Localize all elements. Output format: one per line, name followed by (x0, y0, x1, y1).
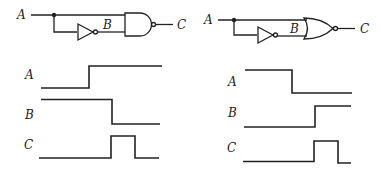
left-inverter-icon (78, 24, 93, 40)
right-timing: A B C (227, 70, 352, 163)
left-circuit-label-a: A (16, 8, 26, 22)
left-waveform-a (41, 66, 162, 88)
right-timing-label-c: C (227, 141, 236, 155)
right-nor-gate-icon (304, 18, 333, 39)
right-circuit-label-b: B (289, 22, 299, 36)
left-circuit: A B C (16, 8, 186, 40)
left-timing-label-c: C (24, 138, 33, 152)
right-circuit-label-c: C (360, 22, 369, 36)
left-nand-gate-icon (125, 13, 152, 36)
right-timing-label-b: B (227, 106, 237, 120)
right-waveform-c (243, 141, 351, 163)
right-wire-branch (234, 20, 257, 35)
left-inverter-bubble (94, 30, 98, 34)
right-inverter-bubble (274, 33, 278, 37)
right-circuit: A B C (203, 13, 369, 43)
right-timing-label-a: A (227, 75, 237, 89)
left-circuit-label-c: C (177, 18, 186, 32)
left-timing-label-a: A (24, 68, 34, 82)
left-wire-branch (54, 15, 77, 32)
left-nand-bubble (152, 23, 156, 27)
right-waveform-b (244, 106, 351, 127)
right-inverter-icon (258, 27, 273, 43)
right-circuit-label-a: A (203, 13, 213, 27)
diagram-svg: A B C A B C A B C A (0, 0, 381, 177)
left-circuit-label-b: B (102, 18, 112, 32)
left-timing-label-b: B (24, 108, 34, 122)
left-waveform-c (39, 136, 159, 158)
diagram-canvas: A B C A B C A B C A (0, 0, 381, 177)
left-waveform-b (41, 100, 160, 125)
left-timing: A B C (24, 66, 162, 158)
right-nor-bubble (334, 27, 338, 31)
right-waveform-a (245, 70, 352, 93)
